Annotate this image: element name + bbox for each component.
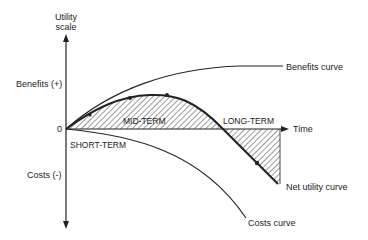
mid-term-label: MID-TERM [123, 116, 166, 126]
y-axis-label-line2: scale [55, 22, 76, 32]
net-utility-curve-label: Net utility curve [286, 182, 348, 192]
utility-diagram: Utility scale Benefits (+) Costs (-) 0 T… [0, 0, 368, 240]
x-axis-label: Time [293, 124, 313, 134]
y-axis-up-arrow-icon [63, 34, 69, 42]
origin-label: 0 [57, 124, 62, 134]
long-term-label: LONG-TERM [223, 116, 274, 126]
benefits-curve-label: Benefits curve [286, 62, 343, 72]
x-axis-arrow-icon [281, 126, 289, 132]
short-term-label: SHORT-TERM [70, 140, 126, 150]
net-utility-point [88, 113, 91, 116]
net-utility-point [255, 161, 259, 165]
net-utility-point [128, 96, 132, 100]
y-axis-down-arrow-icon [63, 221, 69, 229]
y-axis-label-line1: Utility [55, 12, 77, 22]
benefits-label: Benefits (+) [16, 79, 62, 89]
net-utility-point [165, 93, 169, 97]
costs-label: Costs (-) [27, 170, 62, 180]
costs-curve-label: Costs curve [248, 218, 296, 228]
